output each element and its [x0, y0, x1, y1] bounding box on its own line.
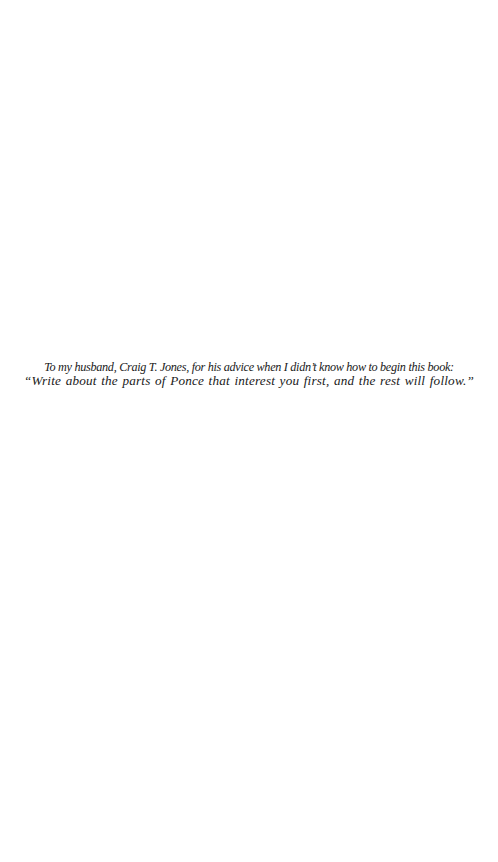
dedication: To my husband, Craig T. Jones, for his a…	[0, 360, 498, 388]
dedication-quote: “Write about the parts of Ponce that int…	[0, 374, 498, 388]
book-page: To my husband, Craig T. Jones, for his a…	[0, 0, 498, 862]
dedication-line-1: To my husband, Craig T. Jones, for his a…	[0, 360, 498, 374]
